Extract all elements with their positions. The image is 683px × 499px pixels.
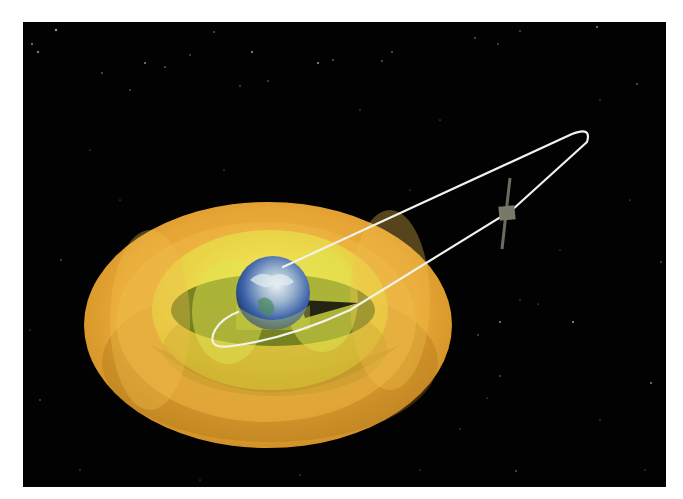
star: [299, 474, 300, 475]
star: [515, 470, 517, 472]
van-allen-belt-illustration: [0, 0, 683, 499]
star: [89, 149, 90, 150]
star: [410, 190, 411, 191]
star: [37, 51, 39, 53]
star: [251, 51, 253, 53]
star: [213, 31, 215, 33]
star: [120, 200, 121, 201]
star: [660, 261, 661, 262]
star: [239, 85, 240, 86]
star: [79, 469, 80, 470]
star: [537, 303, 538, 304]
star: [474, 37, 476, 39]
star: [596, 26, 598, 28]
star: [267, 80, 268, 81]
star: [599, 99, 600, 100]
star: [599, 419, 600, 420]
outer-belt-lobe-left: [110, 230, 190, 410]
star: [391, 51, 393, 53]
satellite-body: [498, 205, 515, 221]
star: [332, 59, 334, 61]
star: [101, 72, 103, 74]
star: [144, 62, 146, 64]
star: [129, 89, 130, 90]
star: [629, 199, 630, 200]
star: [359, 109, 360, 110]
star: [650, 382, 652, 384]
star: [31, 43, 33, 45]
star: [164, 66, 166, 68]
star: [200, 480, 201, 481]
star: [519, 299, 520, 300]
star: [189, 54, 190, 55]
star: [572, 321, 574, 323]
star: [499, 321, 501, 323]
star: [497, 43, 498, 44]
star: [486, 397, 487, 398]
star: [519, 30, 520, 31]
outer-belt-lobe-right: [350, 210, 430, 390]
star: [381, 60, 383, 62]
star: [459, 428, 460, 429]
star: [499, 375, 500, 376]
star: [560, 250, 561, 251]
star: [317, 62, 319, 64]
star: [636, 83, 638, 85]
star: [55, 29, 57, 31]
star: [644, 469, 645, 470]
star: [29, 329, 30, 330]
star: [419, 469, 420, 470]
star: [60, 259, 61, 260]
star: [223, 169, 224, 170]
star: [477, 334, 478, 335]
star: [39, 399, 40, 400]
star: [439, 119, 440, 120]
